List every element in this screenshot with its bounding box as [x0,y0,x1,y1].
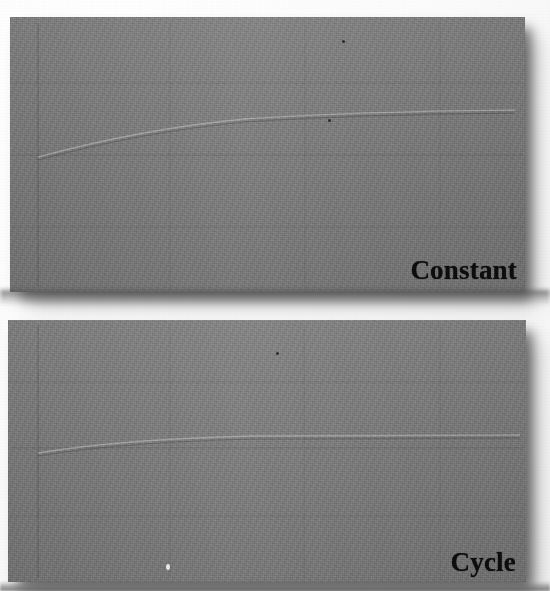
plot-area-cycle [8,320,526,582]
chart-panel-constant: Constant [10,17,525,292]
inter-panel-shadow [0,290,550,306]
plot-area-constant [10,17,525,292]
panel-label-cycle: Cycle [451,549,516,576]
data-curve-constant [38,110,515,157]
data-curve-cycle-shadow [38,438,520,456]
chart-panel-cycle: Cycle [8,320,526,582]
bottom-scan-shadow [0,581,550,591]
data-curve-constant-shadow [38,113,515,160]
panel-label-constant: Constant [410,257,517,284]
